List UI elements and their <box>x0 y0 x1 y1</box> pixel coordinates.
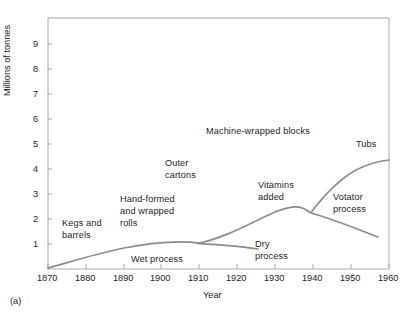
annotation-kegs-and-barrels-line1: Kegs and <box>62 218 102 230</box>
annotation-outer-cartons-line2: cartons <box>165 170 196 182</box>
y-tick-label-7: 7 <box>33 89 38 99</box>
chart-figure: 9 8 7 6 5 4 3 2 1 1870 1880 1890 1900 19… <box>0 0 412 321</box>
x-tick-label-1890: 1890 <box>113 273 133 283</box>
annotation-hand-formed-line3: rolls <box>120 218 137 230</box>
y-tick-label-6: 6 <box>33 114 38 124</box>
y-tick-label-4: 4 <box>33 164 38 174</box>
x-tick-marks <box>48 264 389 269</box>
x-tick-label-1900: 1900 <box>150 273 170 283</box>
y-tick-label-3: 3 <box>33 189 38 199</box>
y-tick-label-8: 8 <box>33 64 38 74</box>
annotation-wet-process: Wet process <box>131 254 183 266</box>
plot-frame <box>48 18 389 269</box>
y-tick-label-9: 9 <box>33 39 38 49</box>
x-tick-label-1920: 1920 <box>226 273 246 283</box>
y-tick-label-5: 5 <box>33 139 38 149</box>
annotation-vitamins-added-line1: Vitamins <box>258 180 294 192</box>
x-tick-label-1870: 1870 <box>37 273 57 283</box>
annotation-vitamins-added-line2: added <box>258 192 284 204</box>
x-tick-label-1960: 1960 <box>378 273 398 283</box>
x-tick-label-1930: 1930 <box>264 273 284 283</box>
annotation-tubs: Tubs <box>356 139 376 151</box>
y-axis-title: Millions of tonnes <box>2 25 12 96</box>
y-tick-label-1: 1 <box>33 239 38 249</box>
annotation-hand-formed-line1: Hand-formed <box>120 194 175 206</box>
panel-caption: (a) <box>10 296 21 306</box>
annotation-kegs-and-barrels-line2: barrels <box>62 230 91 242</box>
x-tick-label-1940: 1940 <box>302 273 322 283</box>
annotation-dry-process-line1: Dry <box>255 239 270 251</box>
series-tubs-branch <box>311 213 378 237</box>
x-tick-label-1880: 1880 <box>75 273 95 283</box>
x-tick-label-1950: 1950 <box>340 273 360 283</box>
annotation-votator-process-line2: process <box>333 204 366 216</box>
y-tick-marks <box>48 44 52 244</box>
annotation-hand-formed-line2: and wrapped <box>120 206 174 218</box>
x-tick-label-1910: 1910 <box>188 273 208 283</box>
series-wet-process-branch <box>197 244 258 250</box>
annotation-votator-process-line1: Votator <box>333 192 363 204</box>
annotation-dry-process-line2: process <box>255 251 288 263</box>
y-tick-label-2: 2 <box>33 214 38 224</box>
annotation-outer-cartons-line1: Outer <box>165 158 188 170</box>
x-axis-title: Year <box>203 290 222 300</box>
annotation-machine-wrapped-blocks: Machine-wrapped blocks <box>206 126 310 138</box>
